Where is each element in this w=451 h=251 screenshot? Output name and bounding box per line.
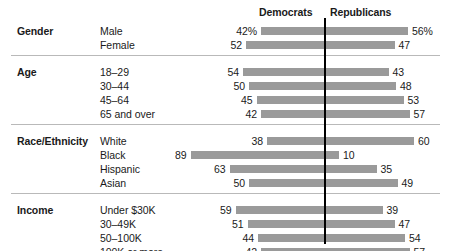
bar-democrats bbox=[261, 110, 324, 118]
group-label: Income bbox=[17, 203, 53, 217]
group-label: Age bbox=[17, 65, 37, 79]
group-label: Gender bbox=[17, 24, 53, 38]
center-axis-line bbox=[324, 18, 326, 244]
bar-democrats bbox=[230, 165, 325, 173]
bar-democrats bbox=[261, 27, 324, 35]
value-republicans: 57 bbox=[414, 245, 426, 251]
chart-row: Female5247 bbox=[0, 38, 451, 52]
value-democrats: 51 bbox=[232, 217, 244, 231]
category-label: Under $30K bbox=[100, 203, 156, 217]
value-democrats: 52 bbox=[230, 38, 242, 52]
bar-democrats bbox=[249, 179, 324, 187]
category-label: 45–64 bbox=[100, 93, 129, 107]
category-label: Black bbox=[100, 148, 125, 162]
category-label: Asian bbox=[100, 176, 126, 190]
chart-row: Race/EthnicityWhite3860 bbox=[0, 134, 451, 148]
value-republicans: 54 bbox=[409, 231, 421, 245]
category-label: 100K or more bbox=[100, 245, 163, 251]
value-democrats: 42 bbox=[245, 245, 257, 251]
bar-republicans bbox=[324, 234, 405, 242]
value-democrats: 44 bbox=[242, 231, 254, 245]
bar-republicans bbox=[324, 179, 398, 187]
bar-republicans bbox=[324, 27, 408, 35]
bar-republicans bbox=[324, 220, 395, 228]
value-republicans: 60 bbox=[418, 134, 430, 148]
chart-row: 50–100K4454 bbox=[0, 231, 451, 245]
bar-republicans bbox=[324, 82, 396, 90]
bar-democrats bbox=[248, 220, 325, 228]
value-republicans: 39 bbox=[387, 203, 399, 217]
value-democrats: 89 bbox=[175, 148, 187, 162]
bar-democrats bbox=[267, 137, 324, 145]
bar-republicans bbox=[324, 151, 339, 159]
bar-democrats bbox=[243, 68, 324, 76]
category-label: 18–29 bbox=[100, 65, 129, 79]
section-divider bbox=[11, 55, 440, 56]
chart-row: 45–644553 bbox=[0, 93, 451, 107]
value-democrats: 50 bbox=[233, 176, 245, 190]
value-republicans: 56% bbox=[412, 24, 433, 38]
value-democrats: 50 bbox=[233, 79, 245, 93]
chart-row: 30–49K5147 bbox=[0, 217, 451, 231]
party-affiliation-diverging-bar-chart: Democrats Republicans GenderMale42%56%Fe… bbox=[0, 0, 451, 251]
group-label: Race/Ethnicity bbox=[17, 134, 88, 148]
bar-republicans bbox=[324, 96, 404, 104]
bar-democrats bbox=[191, 151, 325, 159]
category-label: White bbox=[100, 134, 127, 148]
value-republicans: 47 bbox=[399, 38, 411, 52]
chart-row: Hispanic6335 bbox=[0, 162, 451, 176]
bar-democrats bbox=[258, 234, 324, 242]
bar-republicans bbox=[324, 68, 389, 76]
category-label: Female bbox=[100, 38, 135, 52]
chart-row: IncomeUnder $30K5939 bbox=[0, 203, 451, 217]
value-republicans: 53 bbox=[408, 93, 420, 107]
bar-republicans bbox=[324, 137, 414, 145]
chart-row: Age18–295443 bbox=[0, 65, 451, 79]
legend-label-republicans: Republicans bbox=[330, 6, 391, 19]
value-democrats: 54 bbox=[227, 65, 239, 79]
value-democrats: 42% bbox=[236, 24, 257, 38]
category-label: Hispanic bbox=[100, 162, 140, 176]
chart-row: Asian5049 bbox=[0, 176, 451, 190]
bar-democrats bbox=[257, 96, 325, 104]
value-democrats: 45 bbox=[241, 93, 253, 107]
chart-legend: Democrats Republicans bbox=[0, 6, 451, 20]
value-democrats: 59 bbox=[220, 203, 232, 217]
legend-label-democrats: Democrats bbox=[259, 6, 312, 19]
chart-row: 65 and over4257 bbox=[0, 107, 451, 121]
value-democrats: 38 bbox=[251, 134, 263, 148]
category-label: Male bbox=[100, 24, 123, 38]
value-republicans: 49 bbox=[402, 176, 414, 190]
bar-democrats bbox=[236, 206, 325, 214]
bar-republicans bbox=[324, 206, 383, 214]
value-republicans: 57 bbox=[414, 107, 426, 121]
category-label: 30–49K bbox=[100, 217, 136, 231]
chart-row: GenderMale42%56% bbox=[0, 24, 451, 38]
bar-democrats bbox=[249, 82, 324, 90]
chart-row: 100K or more4257 bbox=[0, 245, 451, 251]
value-republicans: 48 bbox=[400, 79, 412, 93]
bar-democrats bbox=[246, 41, 324, 49]
category-label: 65 and over bbox=[100, 107, 155, 121]
bar-republicans bbox=[324, 41, 395, 49]
value-republicans: 43 bbox=[393, 65, 405, 79]
value-democrats: 42 bbox=[245, 107, 257, 121]
section-divider bbox=[11, 124, 440, 125]
chart-row: 30–445048 bbox=[0, 79, 451, 93]
category-label: 30–44 bbox=[100, 79, 129, 93]
section-divider bbox=[11, 193, 440, 194]
value-democrats: 63 bbox=[214, 162, 226, 176]
category-label: 50–100K bbox=[100, 231, 142, 245]
value-republicans: 47 bbox=[399, 217, 411, 231]
value-republicans: 35 bbox=[381, 162, 393, 176]
bar-republicans bbox=[324, 165, 377, 173]
value-republicans: 10 bbox=[343, 148, 355, 162]
bar-republicans bbox=[324, 110, 410, 118]
chart-row: Black8910 bbox=[0, 148, 451, 162]
